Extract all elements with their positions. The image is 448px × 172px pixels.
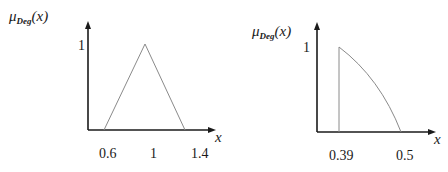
right-chart: μDeg(x) x 1 0.39 0.5: [251, 22, 441, 163]
left-x-tick-1: 1: [150, 146, 157, 161]
right-y-arrow-icon: [314, 22, 320, 30]
right-x-tick-0-5: 0.5: [396, 148, 414, 163]
left-y-arrow-icon: [85, 21, 91, 29]
right-x-tick-0-39: 0.39: [329, 148, 354, 163]
right-y-tick-1: 1: [303, 40, 310, 55]
right-y-axis-label: μDeg(x): [251, 23, 291, 41]
left-x-tick-0-6: 0.6: [99, 146, 117, 161]
left-y-axis-label: μDeg(x): [8, 8, 48, 26]
right-decreasing-membership-curve: [339, 47, 401, 132]
left-x-tick-1-4: 1.4: [191, 146, 209, 161]
right-x-axis-label: x: [433, 131, 441, 147]
left-y-tick-1: 1: [78, 38, 85, 53]
figure: μDeg(x) x 1 0.6 1 1.4 μDeg(x) x 1 0.39 0…: [0, 0, 448, 172]
left-x-axis-label: x: [214, 129, 222, 145]
left-triangle-membership-curve: [104, 44, 185, 130]
left-chart: μDeg(x) x 1 0.6 1 1.4: [8, 8, 222, 161]
